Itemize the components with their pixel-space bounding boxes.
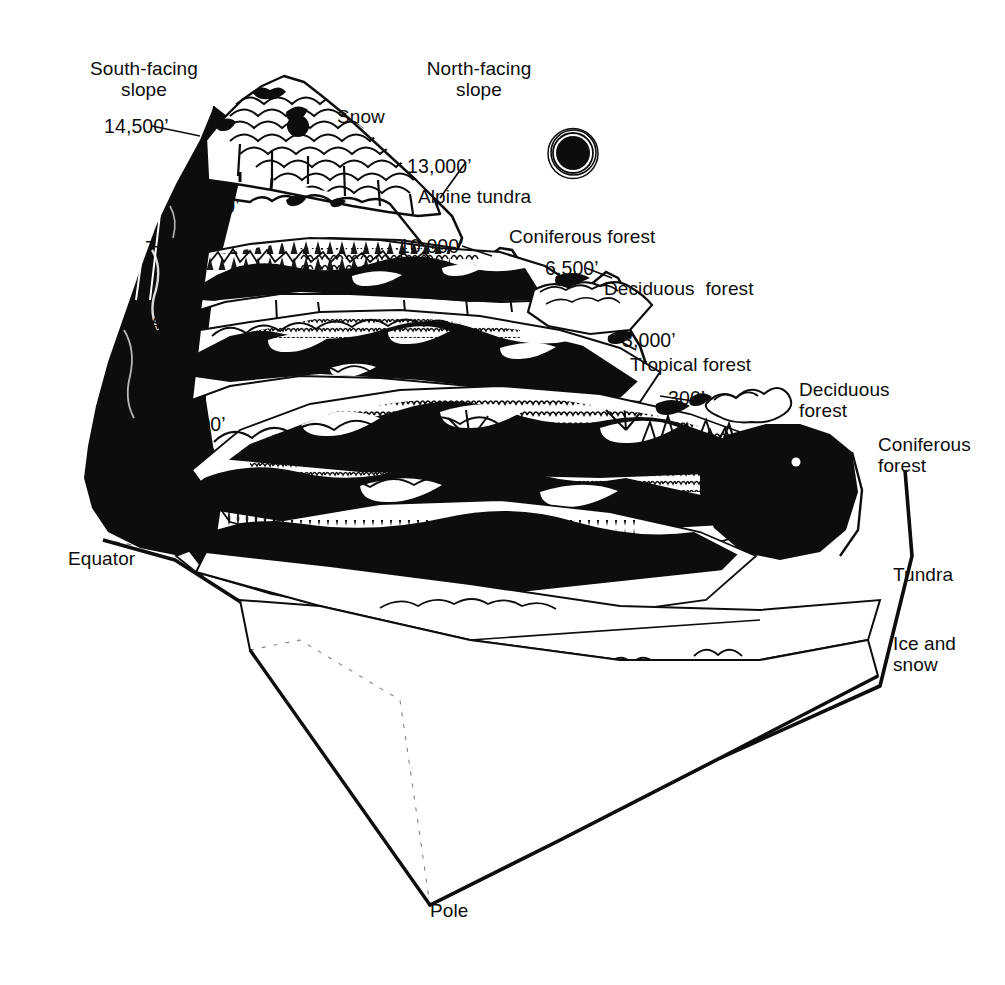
label-equator: Equator bbox=[68, 548, 135, 569]
label-ice-and-snow: Ice and snow bbox=[893, 633, 956, 676]
label-deciduous-forest-upper: Deciduous forest bbox=[604, 278, 754, 299]
elevation-label-e300: 300’ bbox=[668, 388, 705, 410]
label-deciduous-forest-right: Deciduous forest bbox=[799, 379, 890, 422]
label-south-facing-slope: South-facing slope bbox=[78, 58, 210, 101]
elevation-label-e12000: 12,000’ bbox=[175, 196, 240, 218]
label-tropical-forest: Tropical forest bbox=[630, 354, 751, 375]
label-pole: Pole bbox=[430, 900, 468, 921]
elevation-label-e6500: 6,500’ bbox=[545, 258, 599, 280]
polar-plain bbox=[196, 552, 880, 905]
mountain-illustration bbox=[0, 0, 1005, 985]
elevation-label-e3000: 3,000’ bbox=[622, 330, 676, 352]
elevation-label-e10000: 10,000’ bbox=[399, 236, 464, 258]
label-snow: Snow bbox=[337, 106, 385, 127]
snow-capped-peak bbox=[206, 76, 440, 216]
label-coniferous-forest-upper: Coniferous forest bbox=[509, 226, 655, 247]
label-tundra: Tundra bbox=[893, 564, 953, 585]
elevation-label-e13000: 13,000’ bbox=[407, 156, 472, 178]
elevation-label-e7500: 7,500’ bbox=[145, 238, 199, 260]
sun-icon bbox=[548, 129, 598, 179]
biome-zonation-figure: South-facing slope North-facing slope Sn… bbox=[0, 0, 1005, 985]
label-alpine-tundra: Alpine tundra bbox=[418, 186, 531, 207]
elevation-label-e14500: 14,500’ bbox=[104, 116, 169, 138]
label-coniferous-forest-right: Coniferous forest bbox=[878, 434, 971, 477]
elevation-label-e1800: 1,800’ bbox=[172, 414, 226, 436]
elevation-label-e4000: 4,000’ bbox=[150, 312, 204, 334]
label-north-facing-slope: North-facing slope bbox=[408, 58, 550, 101]
